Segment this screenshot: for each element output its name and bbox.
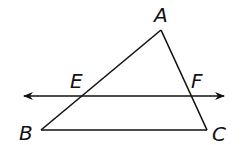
- label-b: B: [19, 121, 33, 145]
- label-c: C: [212, 122, 226, 145]
- label-e: E: [70, 69, 83, 93]
- label-f: F: [191, 69, 203, 93]
- segment-ab: [41, 30, 161, 130]
- triangle-diagram: A E F B C: [0, 0, 247, 145]
- label-a: A: [152, 3, 168, 27]
